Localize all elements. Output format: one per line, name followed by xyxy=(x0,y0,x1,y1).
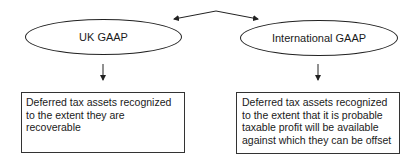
intl-rule-line-2: to the extent that it is probable xyxy=(242,109,395,122)
intl-rule-line-1: Deferred tax assets recognized xyxy=(242,96,395,109)
international-gaap-label: International GAAP xyxy=(272,32,366,44)
intl-rule-line-3: taxable profit will be available xyxy=(242,121,395,134)
uk-rule-line-1: Deferred tax assets recognized xyxy=(26,96,180,109)
intl-rule-line-4: against which they can be offset xyxy=(242,134,395,147)
uk-gaap-node: UK GAAP xyxy=(25,19,182,55)
uk-gaap-label: UK GAAP xyxy=(79,31,128,43)
uk-rule-line-3: recoverable xyxy=(26,121,180,134)
international-gaap-rule-box: Deferred tax assets recognized to the ex… xyxy=(236,92,400,154)
bidirectional-arrow-icon xyxy=(174,11,258,19)
international-gaap-node: International GAAP xyxy=(240,20,398,56)
uk-gaap-rule-box: Deferred tax assets recognized to the ex… xyxy=(21,92,185,153)
uk-rule-line-2: to the extent they are xyxy=(26,109,180,122)
